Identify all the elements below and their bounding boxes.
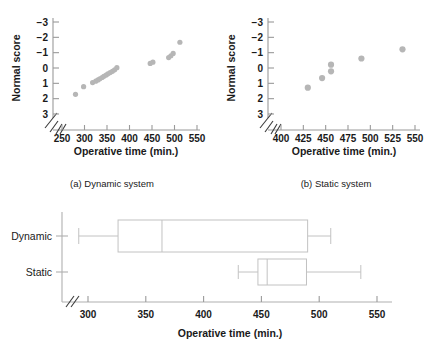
panel-a-y-tick-label: −3 xyxy=(37,17,49,28)
panel-a-x-ticks: 250300350400450500550 xyxy=(54,125,206,144)
panel-a-x-tick-label: 350 xyxy=(99,133,116,144)
panel-a-y-ticks: 3210−1−2−3 xyxy=(37,17,59,120)
panel-b-x-tick-label: 500 xyxy=(362,133,379,144)
panel-a-x-tick-label: 500 xyxy=(166,133,183,144)
boxplot-boxes xyxy=(79,220,361,285)
panel-b-x-tick-label: 525 xyxy=(384,133,401,144)
panel-b-x-tick-label: 450 xyxy=(317,133,334,144)
panel-a-axis-break-icon xyxy=(45,113,66,134)
captions-svg: (a) Dynamic system (b) Static system xyxy=(0,176,430,192)
panel-a-data-points xyxy=(73,40,183,97)
panel-b-y-ticks: 3210−1−2−3 xyxy=(252,17,274,120)
panel-b-y-tick-label: 0 xyxy=(257,63,263,74)
panel-a-y-tick-label: 3 xyxy=(42,109,48,120)
panel-b-y-tick-label: −3 xyxy=(252,17,264,28)
panel-a-x-tick-label: 300 xyxy=(76,133,93,144)
panel-a-y-tick-label: 0 xyxy=(42,63,48,74)
panel-captions-row: (a) Dynamic system (b) Static system xyxy=(0,176,430,192)
panel-a-x-tick-label: 450 xyxy=(144,133,161,144)
panel-b-y-tick-label: −1 xyxy=(252,47,264,58)
panel-b-svg: 3210−1−2−3 400425450475500525550 Operati… xyxy=(215,0,430,165)
panel-b-x-tick-label: 425 xyxy=(295,133,312,144)
panel-a-y-tick-label: 1 xyxy=(42,78,48,89)
panel-b-x-ticks: 400425450475500525550 xyxy=(273,125,424,144)
boxplot-category-label: Dynamic xyxy=(11,230,52,242)
panel-b-point xyxy=(319,75,325,81)
boxplot-x-tick-label: 300 xyxy=(80,309,97,320)
boxplot-x-tick-label: 450 xyxy=(253,309,270,320)
panel-a-point xyxy=(73,92,78,97)
panel-a-x-tick-label: 250 xyxy=(54,133,71,144)
panel-a-y-tick-label: 2 xyxy=(42,93,48,104)
boxplot-x-tick-label: 350 xyxy=(137,309,154,320)
panel-b-point xyxy=(328,68,334,74)
panel-a-svg: 3210−1−2−3 250300350400450500550 Operati… xyxy=(0,0,215,165)
boxplot-x-tick-label: 550 xyxy=(369,309,386,320)
boxplot-category-label: Static xyxy=(26,266,52,278)
panel-a-x-axis-title: Operative time (min.) xyxy=(74,145,178,157)
panel-b-x-tick-label: 550 xyxy=(407,133,424,144)
panel-a-y-tick-label: −2 xyxy=(37,32,49,43)
boxplot-x-tick-label: 400 xyxy=(195,309,212,320)
panel-b-static-normal-plot: 3210−1−2−3 400425450475500525550 Operati… xyxy=(215,0,430,165)
boxplot-category-labels: DynamicStatic xyxy=(11,230,52,278)
panel-b-data-points xyxy=(305,46,406,91)
panel-b-point xyxy=(328,62,334,68)
panel-b-point xyxy=(305,85,311,91)
panel-b-point xyxy=(358,55,364,61)
panel-b-y-tick-label: 2 xyxy=(257,93,263,104)
panel-b-point xyxy=(399,46,405,52)
panel-a-point xyxy=(114,65,119,70)
panel-a-point xyxy=(177,40,182,45)
panel-b-y-tick-label: 1 xyxy=(257,78,263,89)
panel-a-x-tick-label: 550 xyxy=(189,133,206,144)
panel-a-x-tick-label: 400 xyxy=(121,133,138,144)
panel-b-axis-break-icon xyxy=(260,113,281,134)
panel-b-x-axis-title: Operative time (min.) xyxy=(292,145,396,157)
boxplot-box xyxy=(118,220,308,252)
panel-a-dynamic-normal-plot: 3210−1−2−3 250300350400450500550 Operati… xyxy=(0,0,215,165)
panel-a-point xyxy=(150,60,155,65)
boxplot-x-axis-title: Operative time (min.) xyxy=(178,327,282,339)
panel-c-boxplot: 300350400450500550 DynamicStatic Operati… xyxy=(0,196,430,348)
panel-b-y-tick-label: 3 xyxy=(257,109,263,120)
panel-b-x-tick-label: 400 xyxy=(273,133,290,144)
panel-c-svg: 300350400450500550 DynamicStatic Operati… xyxy=(0,196,430,348)
panel-a-y-tick-label: −1 xyxy=(37,47,49,58)
boxplot-x-tick-label: 500 xyxy=(311,309,328,320)
panel-a-point xyxy=(171,51,176,56)
panel-a-point xyxy=(81,84,86,89)
panel-b-y-tick-label: −2 xyxy=(252,32,264,43)
panel-a-caption: (a) Dynamic system xyxy=(70,178,154,189)
boxplot-box xyxy=(258,259,307,285)
boxplot-x-ticks: 300350400450500550 xyxy=(80,296,386,320)
panel-a-y-axis-title: Normal score xyxy=(10,34,22,101)
panel-b-y-axis-title: Normal score xyxy=(225,34,237,101)
panel-b-caption: (b) Static system xyxy=(301,178,372,189)
panel-b-x-tick-label: 475 xyxy=(340,133,357,144)
